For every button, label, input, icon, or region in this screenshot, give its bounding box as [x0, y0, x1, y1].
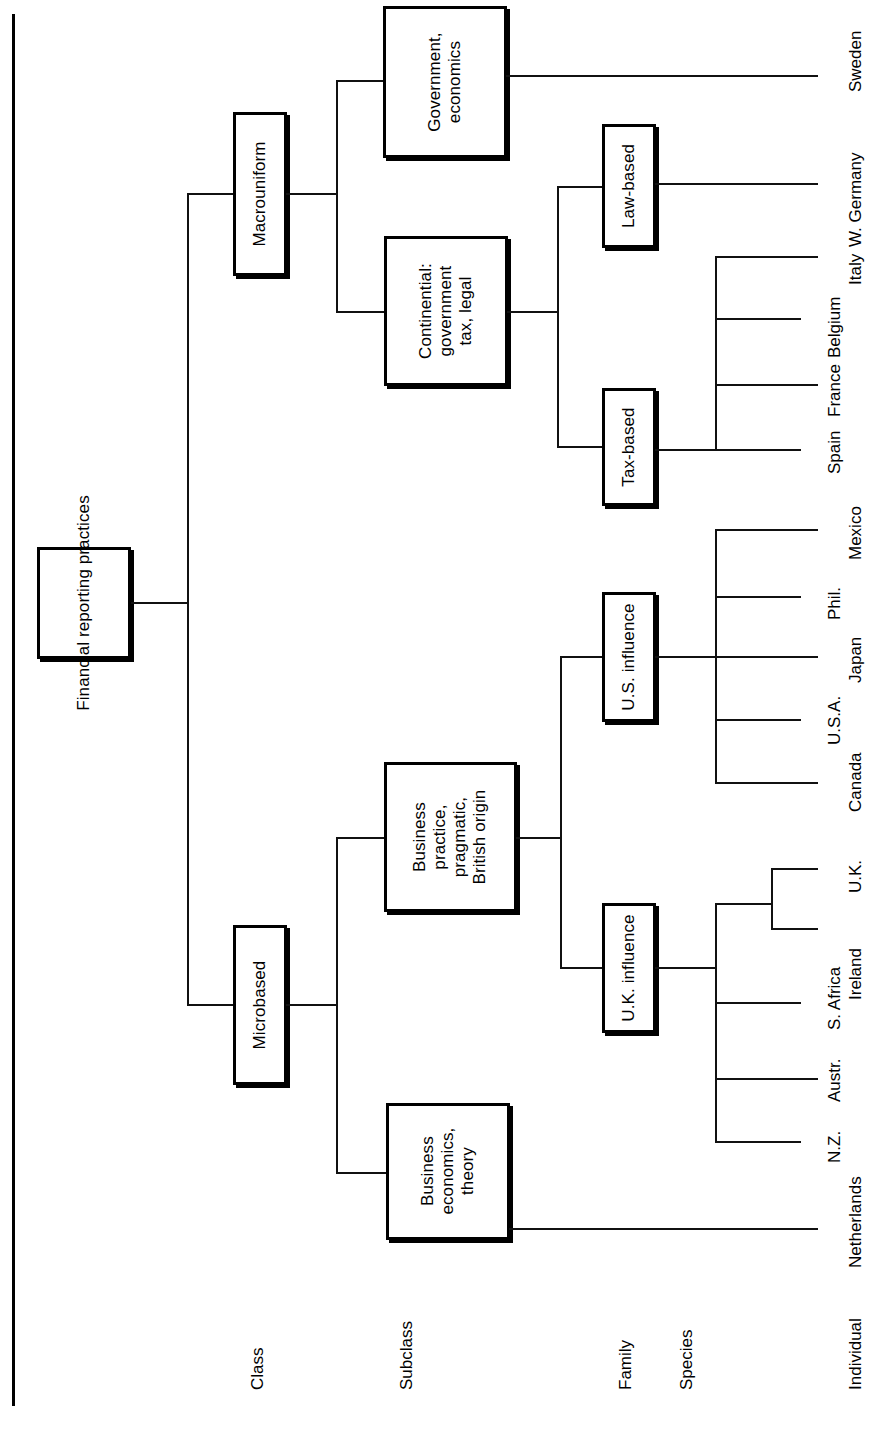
node-subclass-government-economics[interactable]: Government, economics: [383, 6, 507, 158]
edge-continential-family-spine: [557, 186, 559, 446]
leaf-line-mexico: [715, 529, 818, 531]
edge-bp-family-spine: [560, 656, 562, 969]
leaf-label-canada: Canada: [847, 752, 864, 812]
leaf-line-austr: [715, 1078, 818, 1080]
node-family-tax-based[interactable]: Tax-based: [602, 388, 656, 506]
leaf-line-japan: [715, 656, 818, 658]
edge-to-business-economics: [336, 1172, 386, 1174]
edge-continential-out: [507, 311, 559, 313]
leaf-line-nz: [715, 1141, 801, 1143]
node-family-us-influence[interactable]: U.S. influence: [602, 592, 656, 722]
leaf-line-canada: [715, 782, 818, 784]
node-class-macrouniform[interactable]: Macrouniform: [233, 112, 287, 276]
edge-to-us-influence: [560, 656, 604, 658]
leaf-label-uk: U.K.: [847, 860, 864, 893]
leaf-line-ireland: [771, 928, 818, 930]
node-family-law-based[interactable]: Law-based: [602, 124, 656, 248]
edge-business-practice-out: [516, 837, 562, 839]
node-root-label: Financial reporting practices: [74, 495, 94, 711]
edge-macrouniform-out: [286, 193, 338, 195]
level-label-class: Class: [249, 1347, 266, 1390]
leaf-label-nz: N.Z.: [826, 1131, 843, 1163]
edge-micro-subclass-spine: [336, 837, 338, 1174]
node-family-law-based-label: Law-based: [619, 144, 639, 228]
node-subclass-business-economics[interactable]: Business economics, theory: [386, 1103, 510, 1240]
leaf-label-spain: Spain: [826, 431, 843, 474]
node-subclass-continential-label: Continential: government tax, legal: [416, 263, 476, 359]
node-subclass-business-economics-label: Business economics, theory: [418, 1128, 478, 1215]
leaf-line-sweden: [506, 75, 818, 77]
edge-uk-leaf-spine: [715, 903, 717, 1143]
node-class-microbased[interactable]: Microbased: [233, 925, 287, 1085]
leaf-label-japan: Japan: [847, 637, 864, 683]
leaf-line-phil: [715, 596, 801, 598]
leaf-line-italy: [715, 256, 818, 258]
edge-to-continential: [336, 311, 386, 313]
leaf-line-s-africa: [715, 1002, 801, 1004]
edge-spine-macrouniform: [187, 193, 235, 195]
edge-macro-subclass-spine: [336, 80, 338, 313]
leaf-line-uk: [771, 868, 818, 870]
level-label-subclass: Subclass: [398, 1321, 415, 1390]
node-family-us-influence-label: U.S. influence: [619, 603, 639, 710]
leaf-label-ireland: Ireland: [847, 948, 864, 1000]
edge-microbased-out: [286, 1004, 338, 1006]
leaf-label-belgium: Belgium: [826, 297, 843, 358]
edge-to-uk-influence: [560, 967, 604, 969]
leaf-label-mexico: Mexico: [847, 506, 864, 560]
node-family-tax-based-label: Tax-based: [619, 407, 639, 486]
leaf-label-austr: Austr.: [826, 1059, 843, 1102]
leaf-label-france: France: [826, 364, 843, 417]
level-label-family: Family: [617, 1340, 634, 1390]
edge-us-influence-out: [655, 656, 717, 658]
node-subclass-business-practice-label: Business practice, pragmatic, British or…: [410, 790, 490, 885]
node-class-macrouniform-label: Macrouniform: [250, 141, 270, 246]
edge-to-business-practice: [336, 837, 386, 839]
node-class-microbased-label: Microbased: [250, 961, 270, 1050]
node-subclass-government-economics-label: Government, economics: [425, 32, 465, 131]
leaf-label-italy: Italy: [847, 254, 864, 285]
leaf-line-netherlands: [509, 1228, 818, 1230]
edge-uk-influence-out: [655, 967, 717, 969]
edge-tax-based-out: [655, 449, 717, 451]
level-label-individual: Individual: [847, 1318, 864, 1390]
leaf-line-usa: [715, 719, 801, 721]
leaf-label-phil: Phil.: [826, 587, 843, 620]
leaf-line-belgium: [715, 318, 801, 320]
edge-spine-microbased: [187, 1004, 235, 1006]
edge-uk-ireland-spine: [771, 868, 773, 930]
leaf-label-netherlands: Netherlands: [847, 1176, 864, 1268]
edge-to-law-based: [557, 186, 603, 188]
leaf-line-spain: [715, 449, 801, 451]
leaf-line-france: [715, 384, 818, 386]
node-family-uk-influence-label: U.K. influence: [619, 914, 639, 1021]
level-label-species: Species: [678, 1330, 695, 1390]
edge-to-tax-based: [557, 446, 603, 448]
leaf-label-sweden: Sweden: [847, 31, 864, 92]
node-root[interactable]: Financial reporting practices: [37, 547, 131, 659]
left-margin-rule: [12, 14, 15, 1406]
node-family-uk-influence[interactable]: U.K. influence: [602, 903, 656, 1033]
node-subclass-continential[interactable]: Continential: government tax, legal: [384, 236, 508, 386]
leaf-line-w-germany: [655, 183, 818, 185]
leaf-label-s-africa: S. Africa: [826, 967, 843, 1030]
node-subclass-business-practice[interactable]: Business practice, pragmatic, British or…: [384, 762, 517, 912]
edge-tax-leaf-spine: [715, 256, 717, 451]
leaf-label-w-germany: W. Germany: [847, 153, 864, 247]
diagram-canvas: Financial reporting practices Macrounifo…: [0, 0, 895, 1451]
edge-to-government: [336, 80, 386, 82]
edge-uk-ireland-branch: [715, 903, 773, 905]
leaf-label-usa: U.S.A.: [826, 696, 843, 745]
edge-root-out: [131, 602, 189, 604]
edge-class-spine: [187, 193, 189, 1005]
